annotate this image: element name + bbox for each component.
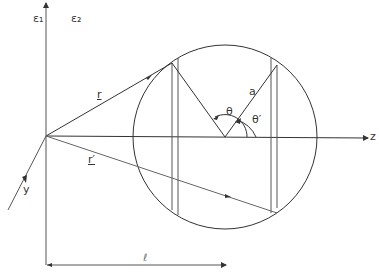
y-axis <box>8 136 46 210</box>
r-vector <box>46 63 172 136</box>
eps2-label: ε₂ <box>71 13 81 24</box>
diagram-canvas <box>0 0 379 273</box>
theta-label: θ <box>226 106 233 117</box>
a-label: a <box>249 86 256 97</box>
r-prime-label: r′ <box>88 154 95 165</box>
r-label: r <box>97 89 102 100</box>
theta-arc-arrow <box>213 115 219 120</box>
radius-a <box>225 65 277 137</box>
radius-left <box>172 63 225 137</box>
theta-prime-label: θ′ <box>252 114 261 125</box>
z-axis-label: z <box>370 131 376 142</box>
eps1-label: ε₁ <box>33 13 43 24</box>
z-axis <box>46 136 368 138</box>
length-label: ℓ <box>143 253 147 263</box>
y-axis-label: y <box>23 184 30 195</box>
length-arrow-start <box>47 263 52 267</box>
r-prime-vector <box>46 136 277 213</box>
